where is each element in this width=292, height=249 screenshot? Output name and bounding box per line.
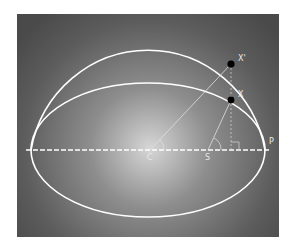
label-p: P xyxy=(269,137,274,146)
point-x xyxy=(228,97,235,104)
label-x: X xyxy=(238,90,244,99)
diagram-background xyxy=(17,14,279,237)
label-c: C xyxy=(147,153,153,162)
kepler-diagram: X' X C S P xyxy=(0,0,292,249)
label-x-prime: X' xyxy=(238,54,246,63)
point-x-prime xyxy=(227,60,234,67)
label-s: S xyxy=(205,153,210,162)
